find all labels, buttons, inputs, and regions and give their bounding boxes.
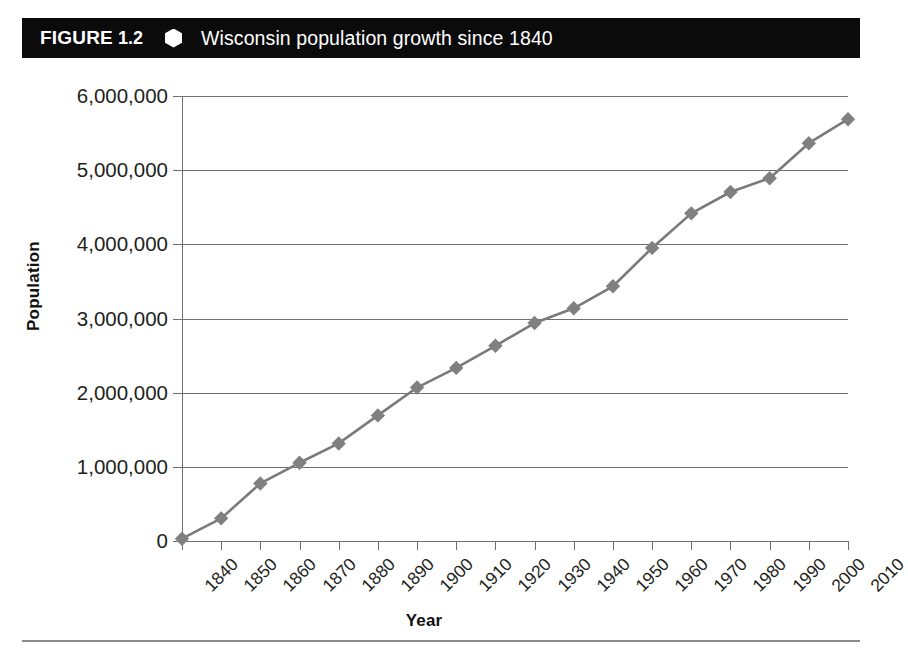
x-axis-title: Year — [0, 611, 848, 631]
series-markers-population — [175, 112, 855, 546]
data-point-1920 — [488, 339, 502, 353]
figure-title: Wisconsin population growth since 1840 — [201, 27, 553, 50]
data-point-1930 — [527, 316, 541, 330]
data-point-1870 — [292, 456, 306, 470]
figure-footer-rule — [22, 640, 860, 642]
chart-container: Population 01,000,0002,000,0003,000,0004… — [0, 58, 887, 659]
series-line-population — [182, 119, 848, 538]
data-point-1940 — [567, 301, 581, 315]
figure-number: 1.2 — [118, 28, 143, 49]
data-point-1910 — [449, 361, 463, 375]
data-series-layer — [0, 58, 887, 659]
data-point-1980 — [723, 185, 737, 199]
data-point-1840 — [175, 532, 189, 546]
figure-label: FIGURE — [40, 27, 113, 49]
hexagon-bullet-icon — [165, 29, 182, 48]
data-point-2010 — [841, 112, 855, 126]
figure-header-bar: FIGURE 1.2 Wisconsin population growth s… — [22, 18, 860, 58]
